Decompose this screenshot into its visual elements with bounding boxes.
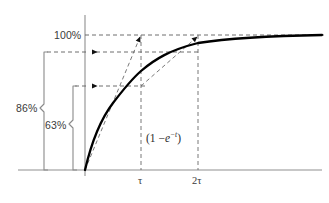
exponential-response-chart [0,0,329,203]
bracket-86 [40,52,48,170]
reference-levels-group [44,35,324,86]
drop-lines-group [141,35,198,170]
curve-equation-label: (1 −e−t) [146,131,181,144]
response-curve-group [85,35,322,170]
figure-container: 100% 86% 63% τ 2τ (1 −e−t) [0,0,329,203]
equation-open-part: (1 − [146,132,165,144]
exponential-curve [85,35,322,170]
label-level-100: 100% [54,30,81,41]
tangent-at-tau [141,37,197,86]
label-level-63: 63% [45,120,66,131]
equation-close-part: ) [177,132,181,144]
x-tick-label-2tau: 2τ [192,176,201,187]
label-level-86: 86% [16,103,37,114]
bracket-63 [69,86,77,170]
x-tick-label-tau: τ [138,176,142,187]
brackets-group [40,52,77,170]
